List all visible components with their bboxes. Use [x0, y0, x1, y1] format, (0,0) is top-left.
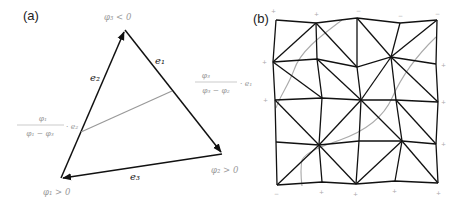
svg-text:· e₂: · e₂ [66, 122, 78, 131]
svg-text:+: + [263, 96, 268, 103]
zero-level-segment [81, 91, 172, 132]
svg-text:+: + [392, 187, 397, 194]
edge-label-e2: e₂ [90, 72, 100, 83]
edge-label-e3: e₃ [130, 171, 140, 182]
svg-text:φ₃: φ₃ [202, 71, 210, 80]
svg-text:+: + [353, 190, 358, 197]
level-set-curves [276, 20, 436, 186]
panel-a: (a) φ₃ < 0 φ₂ > 0 φ₁ > 0 e₁ e₂ e₃ φ₃ φ₃ … [17, 8, 252, 197]
svg-text:+: + [262, 58, 267, 65]
panel-b: (b) [253, 7, 446, 197]
svg-text:φ₁: φ₁ [39, 114, 47, 123]
svg-text:φ₁ − φ₃: φ₁ − φ₃ [26, 129, 54, 138]
annotation-e1-fraction: φ₃ φ₃ − φ₂ · e₁ [195, 71, 252, 95]
svg-text:−: − [435, 10, 440, 17]
svg-text:−: − [274, 190, 279, 197]
level-curve-1 [276, 20, 342, 108]
svg-text:+: + [319, 188, 324, 195]
vertex-label-top: φ₃ < 0 [104, 12, 132, 22]
svg-text:+: + [441, 61, 446, 68]
edge-label-e1: e₁ [155, 55, 165, 66]
svg-text:−: − [356, 7, 361, 14]
svg-text:+: + [271, 7, 276, 14]
svg-text:φ₃ − φ₂: φ₃ − φ₂ [202, 86, 230, 95]
svg-text:+: + [441, 98, 446, 105]
mesh [273, 18, 438, 185]
edge-e2 [61, 32, 124, 178]
svg-text:−: − [398, 12, 403, 19]
panel-a-label: (a) [23, 8, 39, 23]
edge-e3 [63, 154, 222, 178]
vertex-label-left: φ₁ > 0 [43, 187, 71, 197]
vertex-label-right: φ₂ > 0 [211, 165, 239, 175]
annotation-e2-fraction: φ₁ φ₁ − φ₃ · e₂ [17, 114, 78, 138]
panel-b-label: (b) [253, 11, 269, 26]
svg-text:+: + [314, 10, 319, 17]
svg-text:+: + [441, 140, 446, 147]
figure: (a) φ₃ < 0 φ₂ > 0 φ₁ > 0 e₁ e₂ e₃ φ₃ φ₃ … [0, 0, 458, 201]
svg-text:· e₁: · e₁ [240, 79, 252, 88]
svg-text:+: + [436, 189, 441, 196]
